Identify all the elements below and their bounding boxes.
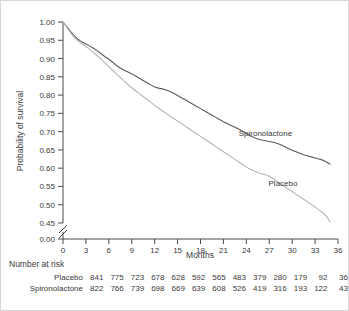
x-tick-label: 9	[130, 246, 135, 255]
x-tick-label: 6	[107, 246, 112, 255]
risk-cell: 822	[83, 283, 103, 294]
risk-cell: 723	[124, 272, 144, 283]
y-tick-label: 0.90	[39, 55, 55, 64]
survival-curve-placebo	[63, 22, 330, 222]
risk-cell: 316	[266, 283, 286, 294]
number-at-risk-section: Number at risk Placebo841775723678628592…	[1, 259, 349, 294]
y-tick-label: 0.00	[39, 235, 55, 244]
risk-cell: 669	[165, 283, 185, 294]
y-tick-label: 0.75	[39, 109, 55, 118]
x-tick-label: 33	[311, 246, 320, 255]
risk-row-label: Spironolactone	[7, 283, 83, 294]
curve-label-spironolactone: Spironolactone	[239, 129, 293, 138]
x-tick-label: 36	[334, 246, 343, 255]
risk-table-row: Spironolactone82276673969866963960852641…	[7, 283, 348, 294]
y-tick-label: 0.50	[39, 201, 55, 210]
risk-cell: 379	[246, 272, 266, 283]
risk-cell: 628	[165, 272, 185, 283]
risk-cell: 775	[103, 272, 123, 283]
y-axis-group	[59, 22, 67, 239]
y-tick-label: 1.00	[39, 18, 55, 27]
risk-table: Placebo841775723678628592565483379280179…	[7, 272, 348, 294]
y-tick-group: 1.000.950.900.850.800.750.700.650.600.55…	[39, 18, 63, 244]
risk-table-body: Placebo841775723678628592565483379280179…	[7, 272, 348, 294]
y-tick-label: 0.80	[39, 91, 55, 100]
risk-cell: 841	[83, 272, 103, 283]
risk-cell: 280	[266, 272, 286, 283]
x-tick-label: 27	[265, 246, 274, 255]
plot-svg: 1.000.950.900.850.800.750.700.650.600.55…	[1, 1, 349, 261]
x-tick-label: 3	[84, 246, 89, 255]
risk-cell: 678	[144, 272, 164, 283]
risk-cell: 43	[328, 283, 349, 294]
y-tick-label: 0.85	[39, 73, 55, 82]
risk-cell: 419	[246, 283, 266, 294]
risk-cell: 179	[287, 272, 307, 283]
risk-table-title: Number at risk	[1, 259, 349, 270]
x-tick-label: 15	[173, 246, 182, 255]
curve-label-placebo: Placebo	[269, 179, 298, 188]
y-tick-label: 0.55	[39, 182, 55, 191]
x-tick-label: 12	[150, 246, 159, 255]
risk-cell: 766	[103, 283, 123, 294]
risk-row-label: Placebo	[7, 272, 83, 283]
x-tick-label: 30	[288, 246, 297, 255]
x-tick-label: 24	[242, 246, 251, 255]
survival-curve-spironolactone	[63, 22, 330, 165]
x-tick-label: 21	[219, 246, 228, 255]
risk-table-row: Placebo841775723678628592565483379280179…	[7, 272, 348, 283]
y-axis-title: Probability of survival	[15, 91, 25, 171]
y-tick-label: 0.70	[39, 128, 55, 137]
risk-cell: 639	[185, 283, 205, 294]
risk-cell: 526	[226, 283, 246, 294]
risk-cell: 92	[307, 272, 327, 283]
y-tick-label: 0.45	[39, 219, 55, 228]
risk-cell: 698	[144, 283, 164, 294]
risk-cell: 122	[307, 283, 327, 294]
risk-cell: 592	[185, 272, 205, 283]
risk-cell: 608	[205, 283, 225, 294]
figure-container: 1.000.950.900.850.800.750.700.650.600.55…	[0, 0, 349, 311]
curve-label-group: SpironolactonePlacebo	[239, 129, 298, 188]
y-tick-label: 0.95	[39, 36, 55, 45]
risk-cell: 193	[287, 283, 307, 294]
y-tick-label: 0.60	[39, 164, 55, 173]
risk-cell: 739	[124, 283, 144, 294]
risk-cell: 483	[226, 272, 246, 283]
risk-cell: 565	[205, 272, 225, 283]
y-tick-label: 0.65	[39, 146, 55, 155]
x-tick-label: 0	[61, 246, 66, 255]
risk-cell: 36	[328, 272, 349, 283]
curve-group	[63, 22, 330, 222]
survival-plot: 1.000.950.900.850.800.750.700.650.600.55…	[1, 1, 349, 261]
